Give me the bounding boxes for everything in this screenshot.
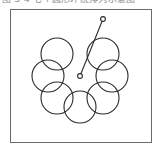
pointer-group <box>78 17 106 79</box>
ring-circle-top-left <box>41 38 73 70</box>
ring-circle-right <box>96 60 128 92</box>
pointer-line <box>80 19 103 76</box>
ring-circle-bottom-right <box>87 82 119 114</box>
circle-ring-group <box>32 38 128 123</box>
ring-circle-bottom <box>64 91 96 123</box>
figure-canvas <box>11 10 151 142</box>
ring-circle-top-right <box>87 38 119 70</box>
figure-panel: 图 3-4 七个圆形环绕排列示意图 <box>0 0 164 153</box>
pointer-center-marker-icon <box>78 74 83 79</box>
ring-circle-left <box>32 60 64 92</box>
ring-circle-bottom-left <box>41 82 73 114</box>
pointer-tip-marker-icon <box>101 17 106 22</box>
caption-text: 图 3-4 七个圆形环绕排列示意图 <box>2 0 136 4</box>
caption-strip: 图 3-4 七个圆形环绕排列示意图 <box>0 0 164 8</box>
figure-frame-border <box>10 9 152 143</box>
